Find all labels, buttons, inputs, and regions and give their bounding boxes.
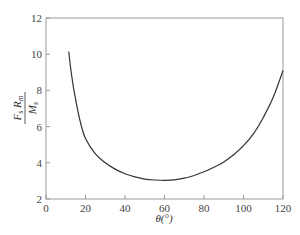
- y-tick-label: 10: [31, 48, 43, 60]
- y-axis-label: Fs Rm Ms: [11, 92, 40, 124]
- tick-labels: 02040608010012024681012: [31, 12, 292, 214]
- y-tick-label: 6: [37, 121, 43, 133]
- x-tick-label: 0: [43, 202, 49, 214]
- x-tick-label: 120: [275, 202, 292, 214]
- svg-text:Fs Rm: Fs Rm: [11, 95, 25, 121]
- y-tick-label: 8: [37, 84, 43, 96]
- y-tick-label: 12: [31, 12, 42, 24]
- data-curve: [69, 52, 283, 181]
- x-tick-label: 80: [199, 202, 211, 214]
- y-tick-label: 4: [37, 157, 43, 169]
- x-tick-label: 20: [80, 202, 92, 214]
- axis-ticks: [46, 18, 283, 199]
- x-axis-label: θ(°): [155, 212, 172, 225]
- plot-frame: [46, 18, 283, 199]
- x-tick-label: 40: [120, 202, 132, 214]
- x-tick-label: 100: [235, 202, 252, 214]
- y-tick-label: 2: [37, 193, 43, 205]
- svg-text:Ms: Ms: [26, 102, 40, 115]
- line-chart: 02040608010012024681012 θ(°) Fs Rm Ms: [0, 0, 300, 235]
